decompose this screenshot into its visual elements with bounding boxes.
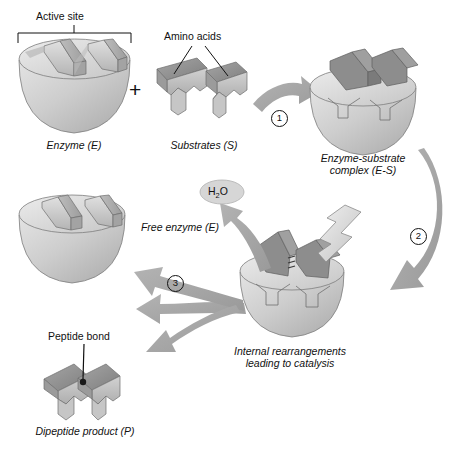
amino-acids-label: Amino acids [164,30,221,42]
enzyme-substrate-complex-figure [310,48,418,155]
free-enzyme-label: Free enzyme (E) [130,221,230,233]
arrow-step-three [134,267,246,352]
catalysis-label-line2: leading to catalysis [222,357,358,369]
free-enzyme-figure [19,195,125,283]
step-two-badge: 2 [410,228,427,245]
substrate-figure-left [157,58,207,115]
catalysis-label-line1: Internal rearrangements [222,345,358,357]
peptide-bond-label: Peptide bond [48,330,110,342]
plus-operator: + [129,78,141,102]
complex-label-line2: complex (E-S) [307,164,419,176]
enzyme-label: Enzyme (E) [33,139,115,151]
arrow-water-release [220,203,271,272]
water-molecule-label: H2O [208,185,228,200]
water-o: O [220,185,228,197]
active-site-label: Active site [36,10,84,22]
substrate-figure-right [206,62,247,118]
dipeptide-product-figure [44,364,120,420]
step-one-badge: 1 [271,110,288,127]
catalysis-bolt-icon [318,205,361,262]
enzyme-figure [19,39,130,133]
enzyme-catalysis-diagram: Active site Amino acids + Enzyme (E) Sub… [0,0,456,454]
dipeptide-product-label: Dipeptide product (P) [22,425,148,437]
water-h: H [208,185,216,197]
peptide-bond-marker [80,379,86,385]
step-three-badge: 3 [167,275,184,292]
complex-label-line1: Enzyme-substrate [307,152,419,164]
substrates-label: Substrates (S) [158,139,250,151]
